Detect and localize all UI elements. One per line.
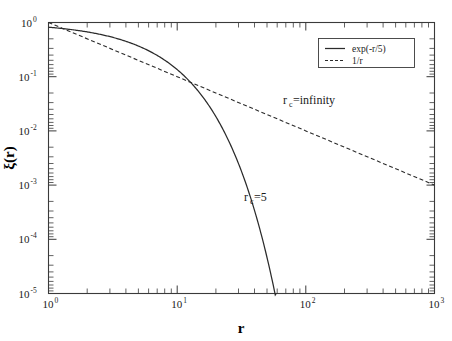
y-axis-title: ξ(r) <box>1 146 18 169</box>
y-tick-label-3: 10 <box>19 179 31 191</box>
y-tick-exp-5: -5 <box>31 286 37 295</box>
y-tick-label-4: 10 <box>19 233 31 245</box>
x-tick-labels: 10 0 10 1 10 2 10 3 <box>43 296 445 310</box>
x-tick-exp-2: 2 <box>312 296 316 305</box>
y-tick-label-2: 10 <box>19 125 31 137</box>
x-tick-exp-3: 3 <box>441 296 445 305</box>
annotation-rc-infinity-suffix: =infinity <box>293 93 335 107</box>
x-tick-label-2: 10 <box>300 298 312 310</box>
x-tick-exp-1: 1 <box>183 296 187 305</box>
y-tick-exp-3: -3 <box>31 177 37 186</box>
y-tick-exp-2: -2 <box>31 123 37 132</box>
x-tick-exp-0: 0 <box>55 296 59 305</box>
x-tick-label-1: 10 <box>171 298 183 310</box>
annotation-rc-5-suffix: =5 <box>254 190 267 204</box>
y-tick-labels: 10 0 10 -1 10 -2 10 -3 10 -4 10 -5 <box>19 15 38 300</box>
chart-canvas: 10 0 10 1 10 2 10 3 10 0 10 -1 10 -2 10 … <box>0 0 452 341</box>
y-tick-label-0: 10 <box>21 17 33 29</box>
annotation-rc-5: r c =5 <box>244 190 267 206</box>
y-tick-label-1: 10 <box>19 71 31 83</box>
y-tick-exp-1: -1 <box>31 69 37 78</box>
legend-label-1: 1/r <box>352 56 363 66</box>
series-line-exp <box>49 27 277 295</box>
legend: exp(-r/5) 1/r <box>319 39 415 68</box>
legend-label-0: exp(-r/5) <box>352 44 386 55</box>
figure-container: 10 0 10 1 10 2 10 3 10 0 10 -1 10 -2 10 … <box>0 0 452 341</box>
annotation-rc-infinity: r c =infinity <box>283 93 335 109</box>
x-axis-title: r <box>238 320 245 336</box>
x-tick-label-3: 10 <box>429 298 441 310</box>
annotation-rc-infinity-base: r <box>283 93 287 107</box>
y-tick-exp-4: -4 <box>31 231 37 240</box>
y-tick-label-5: 10 <box>19 288 31 300</box>
annotation-rc-5-base: r <box>244 190 248 204</box>
y-tick-exp-0: 0 <box>33 15 37 24</box>
x-tick-label-0: 10 <box>43 298 55 310</box>
